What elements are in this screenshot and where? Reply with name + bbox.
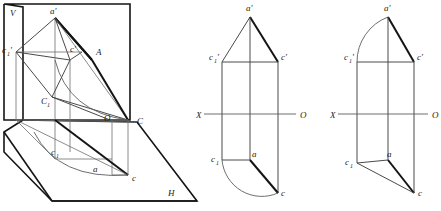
mid-top-right-edge (250, 17, 278, 62)
right-bottom-diagonal-a (388, 160, 414, 193)
label-pictorial-A: A (95, 47, 102, 57)
label-horizontal-plane: H (167, 188, 175, 198)
label-right-c1: c 1 (345, 157, 353, 169)
svg-text:': ' (352, 52, 355, 62)
right-top-right-edge (388, 17, 414, 62)
label-mid-c1: c 1 (211, 154, 219, 166)
label-mid-a: a (252, 149, 257, 159)
label-right-a-prime: a' (384, 3, 392, 13)
right-bottom-horizontal (357, 160, 388, 163)
svg-text:1: 1 (47, 102, 50, 108)
edge-C1-to-O (52, 97, 110, 120)
label-right-axis-o: O (432, 110, 439, 120)
label-mid-a-prime: a' (246, 3, 254, 13)
pictorial-view-group: V H a' c 1 ' c' A C 1 O C c 1 a c (2, 4, 197, 201)
label-mid-axis-x: X (195, 110, 202, 120)
edge-C1-to-c1prime (16, 52, 52, 97)
right-bottom-diagonal-c1 (357, 163, 414, 193)
right-top-arc (357, 17, 388, 62)
label-pictorial-C1-upper: C 1 (41, 96, 50, 108)
rotated-edge-thick (55, 120, 128, 175)
label-pictorial-C: C (137, 116, 144, 126)
label-right-c: c (418, 188, 422, 198)
engineering-drawing-canvas: V H a' c 1 ' c' A C 1 O C c 1 a c (0, 0, 441, 211)
svg-text:1: 1 (216, 160, 219, 166)
svg-text:1: 1 (56, 153, 59, 159)
label-right-a: a (387, 149, 392, 159)
svg-text:1: 1 (350, 163, 353, 169)
label-right-c1-prime: c 1 ' (344, 52, 355, 64)
label-mid-c1-prime: c 1 ' (209, 52, 220, 64)
label-mid-axis-o: O (300, 110, 307, 120)
horizontal-plane-front-edge (4, 132, 52, 201)
label-mid-c: c (281, 188, 285, 198)
label-vertical-plane: V (10, 8, 17, 18)
label-pictorial-c-prime: c' (70, 44, 77, 54)
label-right-c-prime: c' (417, 52, 424, 62)
svg-text:c: c (51, 147, 55, 157)
svg-text:c: c (345, 157, 349, 167)
svg-text:c: c (344, 52, 348, 62)
label-pictorial-O: O (104, 113, 111, 123)
svg-text:': ' (10, 45, 13, 55)
label-right-axis-x: X (329, 110, 336, 120)
svg-text:': ' (217, 52, 220, 62)
mid-bottom-diagonal (250, 160, 278, 193)
technical-drawing-figure: V H a' c 1 ' c' A C 1 O C c 1 a c (0, 0, 441, 211)
prism-upper-left-edge (16, 18, 55, 52)
label-pictorial-a: a (93, 164, 98, 174)
label-pictorial-a-prime: a' (50, 6, 58, 16)
mid-rotation-arc (222, 160, 278, 196)
label-mid-c-prime: c' (281, 52, 288, 62)
vertical-plane-inner-edge (4, 4, 23, 120)
svg-text:c: c (209, 52, 213, 62)
middle-view-group: a' c 1 ' c' X O c 1 a c (195, 3, 307, 198)
prism-upper-center-edge (55, 18, 70, 60)
svg-text:c: c (2, 45, 6, 55)
mid-top-left-edge (222, 17, 250, 62)
svg-text:c: c (211, 154, 215, 164)
prism-upper-diagonal-a (16, 52, 70, 60)
rotated-edge-thin-aux (16, 120, 128, 175)
label-pictorial-c: c (132, 173, 136, 183)
right-view-group: a' c 1 ' c' X O c 1 a c (329, 3, 439, 198)
